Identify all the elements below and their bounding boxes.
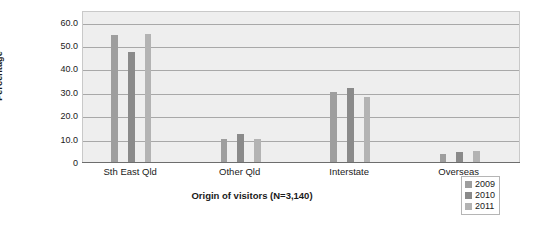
plot-area <box>82 11 520 163</box>
bar <box>221 139 228 162</box>
bar-group <box>330 12 370 162</box>
bar <box>456 152 463 162</box>
bar <box>364 97 371 162</box>
x-axis-tick-labels: Sth East QldOther QldInterstateOverseas <box>82 166 520 180</box>
bar-chart-figure: Percentage 60.050.040.030.020.010.00 Sth… <box>0 0 535 228</box>
bar-group <box>440 12 480 162</box>
y-tick-label: 10.0 <box>44 135 78 145</box>
legend-label: 2010 <box>475 190 495 201</box>
y-tick-label: 20.0 <box>44 111 78 121</box>
bar <box>330 92 337 162</box>
x-tick-label: Interstate <box>329 166 369 177</box>
bar <box>145 34 152 162</box>
bar <box>440 154 447 162</box>
legend-label: 2009 <box>475 179 495 190</box>
legend-swatch-icon <box>465 192 472 199</box>
y-axis-title: Percentage <box>0 36 4 116</box>
y-tick-label: 40.0 <box>44 64 78 74</box>
plot-inner <box>83 12 519 162</box>
y-tick-label: 50.0 <box>44 41 78 51</box>
legend-swatch-icon <box>465 203 472 210</box>
bar <box>128 52 135 162</box>
bar <box>347 88 354 162</box>
bar-group <box>111 12 151 162</box>
y-axis-tick-labels: 60.050.040.030.020.010.00 <box>40 11 78 163</box>
y-tick-label: 30.0 <box>44 88 78 98</box>
bar-group <box>221 12 261 162</box>
bar <box>111 35 118 162</box>
legend-label: 2011 <box>475 201 494 212</box>
x-tick-label: Sth East Qld <box>104 166 157 177</box>
y-tick-label: 60.0 <box>44 18 78 28</box>
x-tick-label: Other Qld <box>219 166 260 177</box>
y-tick-label: 0 <box>44 158 78 168</box>
legend-swatch-icon <box>465 181 472 188</box>
bar <box>473 151 480 162</box>
legend-item[interactable]: 2011 <box>465 201 495 212</box>
legend-item[interactable]: 2010 <box>465 190 495 201</box>
bar <box>237 134 244 162</box>
legend: 200920102011 <box>461 176 500 215</box>
bar <box>254 139 261 162</box>
x-axis-title: Origin of visitors (N=3,140) <box>82 190 422 201</box>
x-axis-line <box>82 162 520 163</box>
legend-item[interactable]: 2009 <box>465 179 495 190</box>
